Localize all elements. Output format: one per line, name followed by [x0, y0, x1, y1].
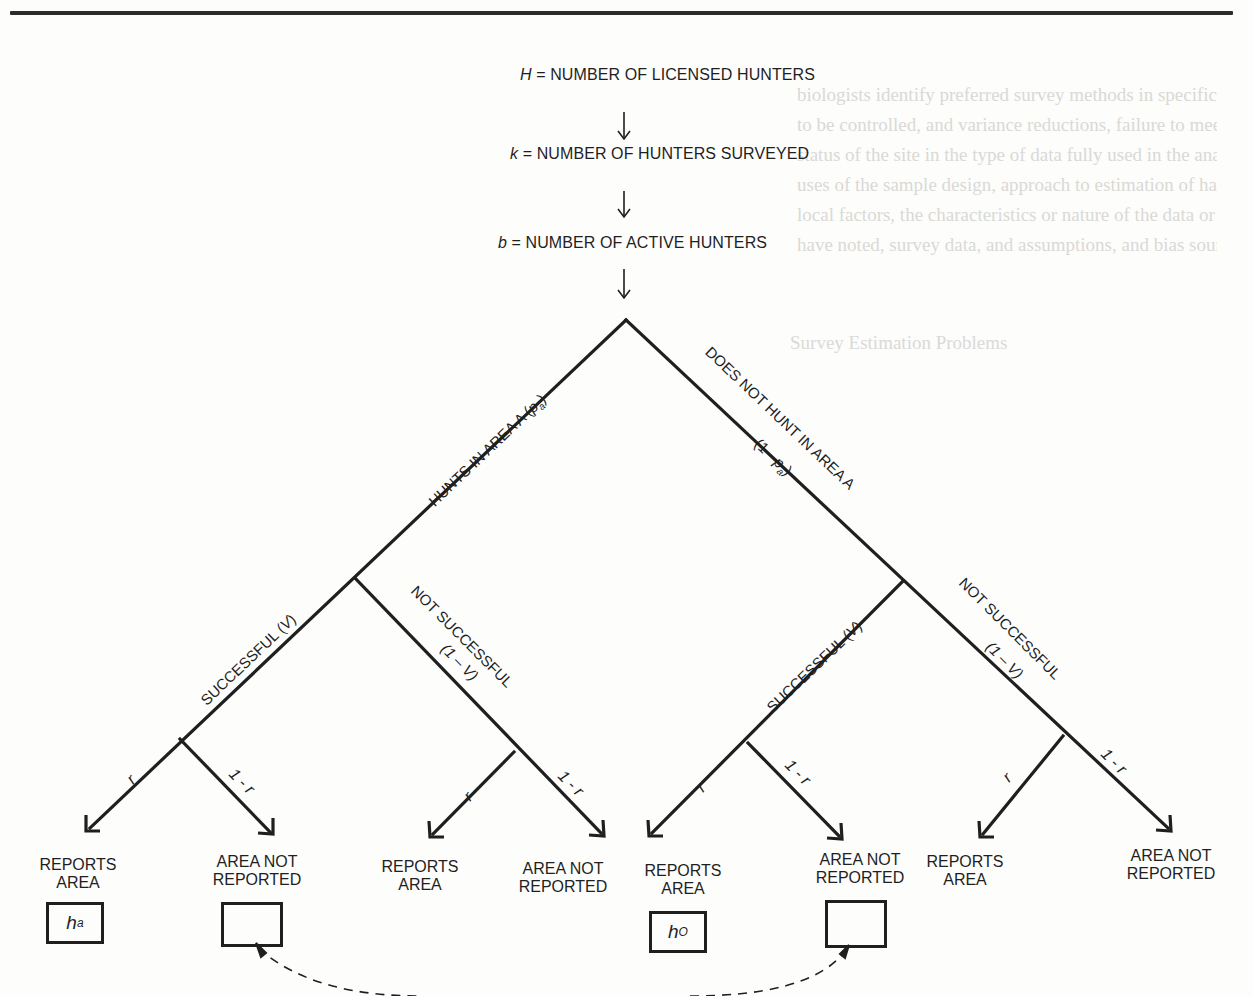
- leaf-3-reports-area: REPORTS AREA: [360, 858, 480, 894]
- label-text: = NUMBER OF HUNTERS SURVEYED: [518, 145, 809, 162]
- leaf-6-area-not-reported: AREA NOT REPORTED: [800, 851, 920, 887]
- hunters-surveyed-label: k = NUMBER OF HUNTERS SURVEYED: [510, 145, 809, 163]
- leaf-label-line: AREA NOT: [1111, 847, 1231, 865]
- leaf-label-line: REPORTS: [623, 862, 743, 880]
- leaf-label-line: AREA NOT: [503, 860, 623, 878]
- leaf-label-line: REPORTED: [1111, 865, 1231, 883]
- leaf-label-line: AREA: [905, 871, 1025, 889]
- leaf-2-box-empty: [221, 902, 283, 947]
- leaf-2-area-not-reported: AREA NOT REPORTED: [197, 853, 317, 889]
- licensed-hunters-label: H = NUMBER OF LICENSED HUNTERS: [520, 66, 815, 84]
- var-b: b: [498, 234, 507, 251]
- leaf-label-line: AREA: [623, 880, 743, 898]
- leaf-label-line: AREA: [18, 874, 138, 892]
- leaf-label-line: AREA NOT: [800, 851, 920, 869]
- leaf-5-reports-area: REPORTS AREA: [623, 862, 743, 898]
- leaf-label-line: REPORTED: [503, 878, 623, 896]
- leaf-7-reports-area: REPORTS AREA: [905, 853, 1025, 889]
- leaf-5-box-ho: hO: [649, 911, 707, 953]
- label-text: = NUMBER OF ACTIVE HUNTERS: [507, 234, 767, 251]
- sub-a: a: [77, 916, 84, 930]
- var-H: H: [520, 66, 532, 83]
- leaf-label-line: AREA: [360, 876, 480, 894]
- label-text: = NUMBER OF LICENSED HUNTERS: [532, 66, 815, 83]
- sub-o: O: [679, 925, 688, 939]
- leaf-label-line: REPORTED: [800, 869, 920, 887]
- leaf-4-area-not-reported: AREA NOT REPORTED: [503, 860, 623, 896]
- leaf-6-box-empty: [825, 900, 887, 948]
- leaf-8-area-not-reported: AREA NOT REPORTED: [1111, 847, 1231, 883]
- var-h: h: [668, 921, 679, 943]
- leaf-label-line: REPORTS: [360, 858, 480, 876]
- leaf-1-reports-area: REPORTS AREA: [18, 856, 138, 892]
- leaf-label-line: REPORTS: [18, 856, 138, 874]
- leaf-1-box-ha: ha: [46, 902, 104, 944]
- leaf-label-line: REPORTS: [905, 853, 1025, 871]
- leaf-label-line: AREA NOT: [197, 853, 317, 871]
- leaf-label-line: REPORTED: [197, 871, 317, 889]
- var-k: k: [510, 145, 518, 162]
- active-hunters-label: b = NUMBER OF ACTIVE HUNTERS: [498, 234, 767, 252]
- var-h: h: [66, 912, 77, 934]
